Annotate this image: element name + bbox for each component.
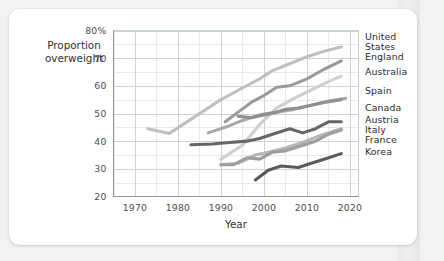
x-tick-label: 2000 bbox=[252, 202, 276, 213]
data-series-lines bbox=[148, 47, 346, 180]
y-tick-label: 60 bbox=[94, 80, 106, 91]
y-axis-title-line2: overweight bbox=[45, 52, 103, 64]
overweight-proportion-line-chart: 20304050607080% 197019801990200020102020… bbox=[0, 0, 444, 261]
x-tick-label: 2020 bbox=[338, 202, 362, 213]
y-tick-label: 30 bbox=[94, 163, 106, 174]
x-tick-label: 1970 bbox=[123, 202, 147, 213]
series-label-canada: Canada bbox=[365, 102, 401, 113]
series-label-england: England bbox=[365, 51, 404, 62]
y-tick-label: 20 bbox=[94, 191, 106, 202]
y-tick-label: 50 bbox=[94, 108, 106, 119]
series-label-korea: Korea bbox=[365, 146, 392, 157]
x-tick-label: 1990 bbox=[209, 202, 233, 213]
x-axis-tick-labels: 197019801990200020102020 bbox=[123, 202, 362, 213]
x-tick-label: 1980 bbox=[166, 202, 190, 213]
screenshot-root: 20304050607080% 197019801990200020102020… bbox=[0, 0, 444, 261]
x-axis-title: Year bbox=[224, 218, 248, 230]
y-tick-label: 40 bbox=[94, 136, 106, 147]
series-label-france: France bbox=[365, 134, 397, 145]
y-tick-label: 80% bbox=[85, 25, 106, 36]
series-inline-labels: UnitedStatesEnglandAustraliaSpainCanadaA… bbox=[365, 31, 407, 157]
series-label-australia: Australia bbox=[365, 66, 407, 77]
x-tick-label: 2010 bbox=[295, 202, 319, 213]
series-label-spain: Spain bbox=[365, 85, 392, 96]
chart-figure: 20304050607080% 197019801990200020102020… bbox=[0, 0, 444, 261]
y-axis-title-line1: Proportion bbox=[47, 39, 101, 51]
